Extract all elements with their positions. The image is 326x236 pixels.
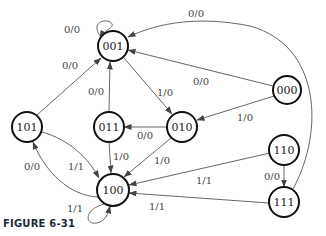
label-101-100: 1/1 <box>68 161 84 172</box>
state-011: 011 <box>94 112 124 142</box>
state-010: 010 <box>167 112 197 142</box>
label-000-001: 0/0 <box>193 76 209 87</box>
state-000: 000 <box>273 76 301 104</box>
state-101-label: 101 <box>17 121 38 134</box>
label-101-001: 0/0 <box>62 60 78 71</box>
label-001-010: 1/0 <box>157 87 173 98</box>
label-010-100: 1/0 <box>154 155 170 166</box>
label-110-100: 1/1 <box>196 175 212 186</box>
label-011-001: 0/0 <box>88 86 104 97</box>
state-010-label: 010 <box>172 121 193 134</box>
label-100-101: 0/0 <box>24 161 40 172</box>
edge-000-010 <box>197 96 274 120</box>
edge-011-100 <box>109 142 111 173</box>
state-110-label: 110 <box>274 144 295 157</box>
state-011-label: 011 <box>99 121 120 134</box>
figure-caption: FIGURE 6-31 <box>3 218 75 229</box>
state-110: 110 <box>269 135 299 165</box>
state-100: 100 <box>97 174 129 206</box>
state-100-label: 100 <box>103 184 124 197</box>
state-111: 111 <box>269 187 299 217</box>
label-111-100: 1/1 <box>149 201 165 212</box>
label-000-010: 1/0 <box>237 112 253 123</box>
state-101: 101 <box>12 112 42 142</box>
state-001-label: 001 <box>103 40 124 53</box>
label-110-111: 0/0 <box>264 171 280 182</box>
edge-100-101 <box>33 142 98 197</box>
edge-011-001 <box>109 62 110 112</box>
label-111-001: 0/0 <box>188 8 204 19</box>
label-010-011: 0/0 <box>137 130 153 141</box>
label-011-100: 1/0 <box>113 151 129 162</box>
state-111-label: 111 <box>274 196 295 209</box>
label-100-100: 1/1 <box>67 203 83 214</box>
edge-100-100 <box>88 204 110 223</box>
state-000-label: 000 <box>277 84 298 97</box>
state-001: 001 <box>98 31 128 61</box>
state-diagram: 0/0 0/0 0/0 1/0 0/0 1/0 0/0 0/0 1/0 1/0 … <box>0 0 326 236</box>
label-001-001: 0/0 <box>64 24 80 35</box>
